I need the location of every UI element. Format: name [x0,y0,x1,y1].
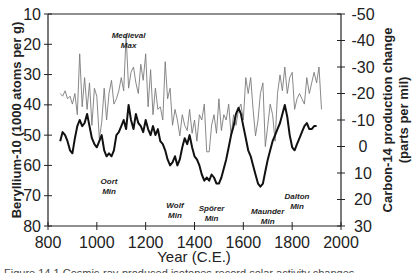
y-axis-title: Beryllium-10 (1000 atoms per g) [9,22,24,219]
y-tick-label: 10 [23,6,41,23]
svg-text:Oort: Oort [101,177,118,186]
y2-tick-label: -30 [351,59,374,76]
x-tick-label: 2000 [323,234,359,251]
svg-text:Medieval: Medieval [112,31,147,40]
y2-tick-label: 30 [354,218,372,235]
x-tick-label: 1000 [79,234,115,251]
svg-text:Min: Min [261,217,275,226]
svg-text:Min: Min [290,202,304,211]
y-tick-label: 80 [23,218,41,235]
svg-text:Min: Min [205,214,219,223]
chart: 1020304050607080 -50-40-30-20-100102030 … [0,0,413,278]
right-y-axis: -50-40-30-20-100102030 [337,6,375,235]
y2-tick-label: -10 [351,112,374,129]
x-axis-title: Year (C.E.) [157,248,231,265]
y-tick-label: 20 [23,36,41,53]
series-line [60,35,321,152]
y-tick-label: 30 [23,66,41,83]
x-tick-label: 1800 [274,234,310,251]
svg-text:Min: Min [168,211,182,220]
annotation-label: OortMin [101,177,118,196]
y2-tick-label: -20 [351,85,374,102]
y2-axis-title-line1: Carbon-14 production change [380,28,395,213]
y2-axis-title-line2: (parts per mil) [396,77,411,164]
y-tick-label: 60 [23,157,41,174]
carbon-14-series [60,35,321,152]
y2-tick-label: -50 [351,6,374,23]
y2-tick-label: 10 [354,165,372,182]
y2-tick-label: -40 [351,32,374,49]
annotation-label: MedievalMax [112,31,147,50]
annotation-label: DaltonMin [285,192,310,211]
svg-text:Min: Min [102,187,116,196]
svg-text:Wolf: Wolf [166,201,185,210]
x-tick-label: 800 [35,234,62,251]
x-tick-label: 1600 [226,234,262,251]
y-tick-label: 70 [23,187,41,204]
y-tick-label: 50 [23,127,41,144]
annotation-label: SpörerMin [199,204,226,223]
annotation-label: MaunderMin [251,207,285,226]
y2-tick-label: 20 [354,191,372,208]
y-tick-label: 40 [23,96,41,113]
annotation-label: WolfMin [166,201,185,220]
y2-tick-label: 0 [359,138,368,155]
svg-text:Max: Max [121,41,137,50]
svg-text:Dalton: Dalton [285,192,310,201]
svg-text:Maunder: Maunder [251,207,285,216]
svg-text:Spörer: Spörer [199,204,226,213]
